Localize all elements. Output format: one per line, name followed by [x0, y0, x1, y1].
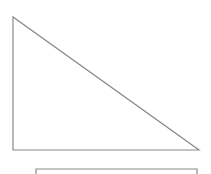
base-bracket: [36, 169, 197, 174]
diagram-canvas: [0, 0, 211, 174]
right-triangle: [13, 17, 199, 150]
